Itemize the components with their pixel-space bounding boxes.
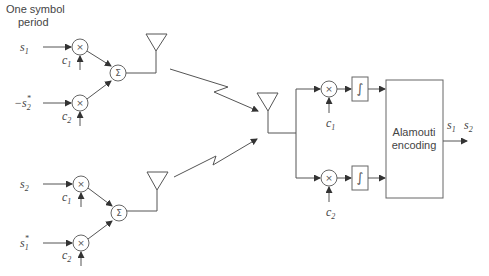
code-label-c2: c2 <box>62 109 71 125</box>
to-sum-arrow <box>87 51 111 66</box>
block-label-line-2: encoding <box>392 139 437 151</box>
rx-feed-line <box>268 111 296 133</box>
output-symbol-s1: s1 <box>447 118 456 134</box>
input-symbol-s2: s2 <box>20 177 29 193</box>
integral-icon: ∫ <box>357 170 364 185</box>
to-sum-arrow <box>87 81 111 99</box>
input-symbol-s1-conj: s1* <box>20 234 29 252</box>
title-line-1: One symbol <box>6 3 65 15</box>
feed-line <box>126 51 156 73</box>
sigma-icon: Σ <box>116 208 122 218</box>
sigma-icon: Σ <box>115 68 121 78</box>
integral-icon: ∫ <box>357 81 364 96</box>
input-symbol-neg-s2-conj: −s2* <box>14 94 31 112</box>
code-label-c1: c1 <box>62 190 71 206</box>
multiply-icon: × <box>76 42 84 52</box>
input-symbol-s1: s1 <box>20 40 29 56</box>
multiply-icon: × <box>76 98 84 108</box>
to-sum-arrow <box>88 221 112 239</box>
multiply-icon: × <box>325 84 333 94</box>
channel-path-2 <box>174 139 257 177</box>
transmitter-2: s2 × c1 s1* × c2 Σ <box>20 172 168 266</box>
tx-antenna-icon <box>146 34 167 51</box>
multiply-icon: × <box>77 238 85 248</box>
tx-antenna-icon <box>147 172 168 190</box>
multiply-icon: × <box>325 173 333 183</box>
receiver: × c1 ∫ × c2 ∫ Alamouti encoding s1 s2 <box>257 77 473 221</box>
rx-code-label-c1: c1 <box>326 116 335 132</box>
title-line-2: period <box>18 16 49 28</box>
multiply-icon: × <box>77 179 85 189</box>
feed-line <box>127 190 157 211</box>
code-label-c2: c2 <box>62 248 71 264</box>
channel-path-1 <box>170 69 258 111</box>
code-label-c1: c1 <box>62 53 71 69</box>
transmitter-1: s1 × c1 −s2* × c2 Σ <box>14 34 167 126</box>
rx-antenna-icon <box>257 93 278 111</box>
to-sum-arrow <box>88 188 112 206</box>
alamouti-diagram: One symbol period s1 × c1 −s2* × c2 Σ s2… <box>0 0 489 276</box>
block-label-line-1: Alamouti <box>393 126 436 138</box>
rx-code-label-c2: c2 <box>326 205 335 221</box>
output-symbol-s2: s2 <box>464 118 473 134</box>
